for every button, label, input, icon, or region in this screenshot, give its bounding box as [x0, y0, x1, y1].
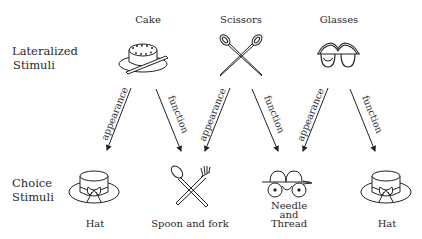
scissors-icon — [218, 33, 264, 76]
arrow-label: appearance — [295, 86, 326, 143]
arrow-label: appearance — [99, 85, 130, 142]
arrow-label: function — [166, 94, 191, 135]
arrows — [107, 88, 375, 151]
spoon-fork-icon — [169, 164, 210, 207]
needle-thread-icon — [262, 171, 312, 197]
cake-icon — [119, 44, 168, 74]
hat-icon — [69, 171, 119, 203]
arrow-label: appearance — [197, 86, 228, 143]
arrow-label: function — [360, 94, 385, 135]
glasses-icon — [317, 43, 360, 67]
diagram-canvas: appearance function appearance function … — [0, 0, 422, 239]
hat-icon — [361, 171, 411, 203]
arrow-label: function — [262, 94, 287, 135]
